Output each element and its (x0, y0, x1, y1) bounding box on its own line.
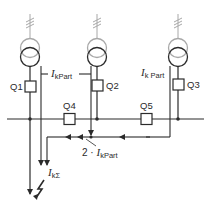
transformer-3 (169, 14, 188, 67)
breaker-q1-label: Q1 (10, 81, 23, 92)
three-phase-hatch-icon (174, 18, 182, 28)
short-circuit-current-diagram: Q1 Q2 Q3 Q4 Q5 IkPart (0, 0, 216, 212)
breaker-q3-label: Q3 (187, 79, 200, 90)
lightning-bolt-icon (33, 180, 44, 200)
breaker-q2-label: Q2 (106, 80, 119, 91)
three-phase-hatch-icon (26, 18, 34, 28)
breaker-q5-label: Q5 (140, 100, 153, 111)
breaker-q4-label: Q4 (63, 100, 76, 111)
breaker-q4: Q4 (63, 100, 76, 125)
breaker-q1: Q1 (10, 81, 36, 92)
breaker-q2: Q2 (92, 80, 119, 91)
transformer-2 (88, 14, 107, 67)
total-current-label: IkΣ (47, 166, 60, 180)
transformer-1 (21, 14, 40, 67)
combined-junction (89, 135, 92, 138)
partial-current-right-label: Ik Part (140, 66, 165, 80)
breaker-q5: Q5 (140, 100, 153, 125)
partial-current-left-label: IkPart (50, 67, 73, 81)
three-phase-hatch-icon (93, 18, 101, 28)
breaker-q3: Q3 (173, 79, 200, 90)
combined-current-label: 2 · IkPart (82, 146, 119, 160)
